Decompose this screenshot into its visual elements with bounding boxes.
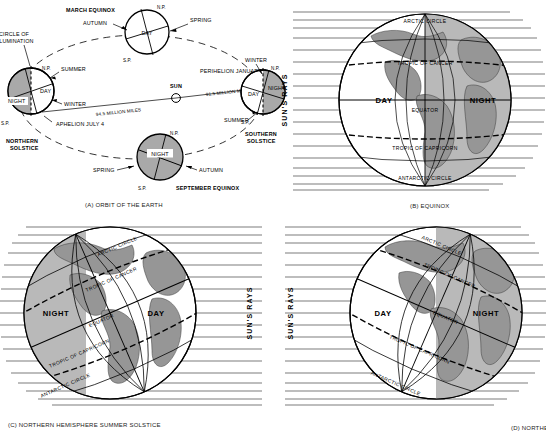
march-equinox-spring-label: SPRING: [190, 17, 212, 23]
spring-arrow-top: [170, 24, 188, 31]
panel-a-orbit: SUN 94.5 MILLION MILES 91.5 MILLION MILE…: [0, 0, 273, 215]
september-equinox-np-label: N.P.: [170, 131, 179, 136]
panel-c-svg: SUN'S RAYS: [0, 215, 273, 420]
march-equinox-title: MARCH EQUINOX: [66, 7, 115, 13]
september-equinox-sp-label: S.P.: [138, 186, 147, 191]
southern-solstice-summer-label: SUMMER: [224, 117, 249, 123]
panel-b-day-label: DAY: [375, 96, 392, 105]
panel-c-rays-label: SUN'S RAYS: [246, 287, 253, 340]
panel-b-arctic-circle-label: ARCTIC CIRCLE: [404, 18, 447, 24]
september-equinox-autumn-label: AUTUMN: [199, 167, 223, 173]
september-equinox-night-label: NIGHT: [151, 151, 169, 157]
northern-solstice-summer-label: SUMMER: [61, 66, 86, 72]
aphelion-label: APHELION JULY 4: [56, 121, 104, 127]
panel-b-antarctic-circle-label: ANTARCTIC CIRCLE: [398, 175, 452, 181]
panel-b-tropic-capricorn-label: TROPIC OF CAPRICORN: [392, 145, 457, 151]
aphelion-leader: [44, 116, 52, 122]
globe-march-equinox: DAY N.P. S.P. MARCH EQUINOX AUTUMN SPRIN…: [66, 5, 212, 63]
panel-d-day-label: DAY: [374, 309, 391, 318]
panel-b-svg: SUN'S RAYS: [275, 0, 546, 202]
northern-solstice-title-1: NORTHERN: [6, 138, 38, 144]
distance-aphelion-label: 94.5 MILLION MILES: [96, 107, 142, 117]
panel-b-tropic-cancer-label: TROPIC OF CANCER: [397, 60, 452, 66]
northern-solstice-winter-label: WINTER: [64, 101, 86, 107]
globe-september-equinox: NIGHT N.P. S.P. SEPTEMBER EQUINOX SPRING…: [93, 131, 240, 191]
circle-of-illumination-leader: [24, 45, 30, 66]
southern-solstice-title-1: SOUTHERN: [245, 131, 277, 137]
march-equinox-day-label: DAY: [141, 30, 152, 36]
panel-c-summer-solstice: SUN'S RAYS: [0, 215, 273, 439]
northern-solstice-np-label: N.P.: [42, 66, 51, 71]
panel-a-caption: (A) ORBIT OF THE EARTH: [85, 202, 163, 208]
panel-d-svg: SUN'S RAYS: [273, 215, 546, 420]
northern-solstice-night-shade: [8, 68, 31, 114]
panel-b-caption: (B) EQUINOX: [410, 203, 450, 209]
panel-d-night-label: NIGHT: [473, 309, 500, 318]
september-equinox-spring-label: SPRING: [93, 167, 115, 173]
figure-sheet: SUN 94.5 MILLION MILES 91.5 MILLION MILE…: [0, 0, 546, 439]
sun-label: SUN: [170, 83, 182, 89]
panel-d-rays-label: SUN'S RAYS: [287, 287, 294, 340]
circle-of-illumination-label-2: ILLUMINATION: [0, 38, 34, 44]
panel-c-night-label: NIGHT: [43, 309, 70, 318]
orbit-ellipse: [18, 35, 262, 159]
panel-c-caption: (C) NORTHERN HEMISPHERE SUMMER SOLSTICE: [8, 422, 161, 428]
autumn-arrowhead-bottom: [186, 166, 192, 169]
september-equinox-title: SEPTEMBER EQUINOX: [176, 185, 240, 191]
panel-d-winter-solstice: SUN'S RAYS: [273, 215, 546, 439]
panel-b-equinox: SUN'S RAYS: [275, 0, 546, 215]
spring-arrowhead-bottom: [128, 166, 134, 169]
panel-b-rays-label: SUN'S RAYS: [281, 74, 288, 127]
panel-d-caption: (D) NORTHERN HEMISPHERE WINTER SOLSTICE: [511, 425, 546, 431]
northern-solstice-title-2: SOLSTICE: [10, 145, 39, 151]
march-equinox-sp-label: S.P.: [123, 58, 132, 63]
northern-solstice-day-label: DAY: [40, 88, 51, 94]
globe-northern-solstice: DAY NIGHT N.P. S.P. NORTHERN SOLSTICE CI…: [0, 31, 86, 151]
panel-b-equator-label: EQUATOR: [412, 107, 439, 113]
southern-solstice-winter-label: WINTER: [245, 57, 267, 63]
panel-b-night-label: NIGHT: [470, 96, 497, 105]
panel-a-svg: SUN 94.5 MILLION MILES 91.5 MILLION MILE…: [0, 0, 273, 200]
northern-solstice-night-label: NIGHT: [8, 98, 26, 104]
southern-solstice-day-label: DAY: [248, 91, 259, 97]
northern-solstice-sp-label: S.P.: [1, 121, 10, 126]
circle-of-illumination-label-1: CIRCLE OF: [0, 31, 30, 37]
march-equinox-autumn-label: AUTUMN: [83, 20, 107, 26]
panel-c-day-label: DAY: [147, 309, 164, 318]
march-equinox-np-label: N.P.: [157, 5, 166, 10]
southern-solstice-title-2: SOLSTICE: [247, 138, 276, 144]
